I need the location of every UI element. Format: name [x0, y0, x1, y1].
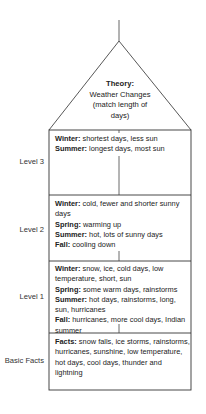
level-1-entry-spring: Spring: some warm days, rainstorms — [55, 285, 191, 295]
theory-line-2: (match length of — [70, 100, 170, 111]
level-1-label: Level 1 — [20, 292, 45, 302]
level-2-entry-winter: Winter: cold, fewer and shorter sunny da… — [55, 199, 191, 220]
level-2-entry-spring: Spring: warming up — [55, 220, 191, 230]
level-2-content: Winter: cold, fewer and shorter sunny da… — [55, 199, 191, 250]
basic-facts-content: Facts: snow falls, ice storms, rainstorm… — [55, 337, 191, 378]
level-1-entry-fall: Fall: hurricanes, more cool days, Indian… — [55, 315, 191, 336]
level-3-entry-summer: Summer: longest days, most sun — [55, 144, 191, 154]
level-1-entry-summer: Summer: hot days, rainstorms, long, sun,… — [55, 295, 191, 316]
theory-block: Theory: Weather Changes (match length of… — [70, 79, 170, 121]
basic-facts-label: Basic Facts — [5, 356, 44, 366]
basic-facts-entry: Facts: snow falls, ice storms, rainstorm… — [55, 337, 191, 378]
level-2-label: Level 2 — [20, 225, 45, 235]
level-2-entry-fall: Fall: cooling down — [55, 240, 191, 250]
level-3-label: Level 3 — [20, 157, 45, 167]
level-1-entry-winter: Winter: snow, ice, cold days, low temper… — [55, 264, 191, 285]
theory-label: Theory: — [70, 79, 170, 90]
level-3-content: Winter: shortest days, less sun Summer: … — [55, 134, 191, 155]
level-2-entry-summer: Summer: hot, lots of sunny days — [55, 230, 191, 240]
level-1-content: Winter: snow, ice, cold days, low temper… — [55, 264, 191, 336]
theory-line-3: days) — [70, 111, 170, 122]
theory-line-1: Weather Changes — [70, 90, 170, 101]
level-3-entry-winter: Winter: shortest days, less sun — [55, 134, 191, 144]
